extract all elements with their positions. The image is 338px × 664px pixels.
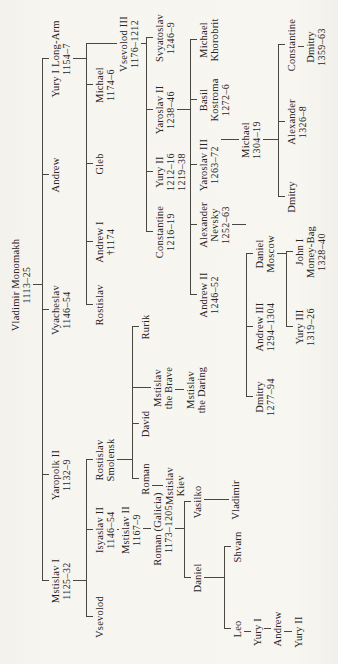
person-rostislav_y: Rostislav [94,285,105,326]
person-name: Daniel [192,563,203,592]
person-name: Vsevolod [94,596,105,638]
person-name: Roman [140,463,151,494]
person-yury2: Yury II1212–161219–38 [154,153,187,191]
person-rost_smol: RostislavSmolensk [94,438,116,481]
person-name: Michael [198,18,209,61]
person-basil: BasilKostroma1272–6 [198,78,231,121]
connector-line [146,231,153,232]
person-yury1_gal: Yury I [252,618,263,646]
connector-line [175,389,184,390]
connector-line [190,99,197,100]
person-dates: 1246–52 [209,272,220,317]
person-yury1long: Yury I Long-Arm1154–7 [50,20,72,97]
person-dates: 1326–8 [297,99,308,145]
connector-line [286,251,287,327]
person-svyatoslav: Svyatoslav1246–9 [154,14,176,62]
connector-line [184,501,191,502]
connector-line [190,294,197,295]
person-name: Khorobrit [209,18,220,61]
person-dates: 1263–72 [209,139,220,191]
person-name: Isyaslav II [94,507,105,553]
person-name: Andrew I [94,221,105,263]
person-dates: †1174 [105,221,116,263]
connector-line [246,396,253,397]
person-name: Constantine [154,206,165,258]
person-dates: 1146–54 [105,507,116,553]
connector-line [86,84,93,85]
connector-line [42,309,49,310]
connector-line [184,501,185,578]
person-shvarn: Shvarn [232,532,243,563]
connector-line [246,326,253,327]
connector-line [286,326,293,327]
person-vyacheslav: Vyacheslav1146–54 [50,285,72,335]
connector-line [221,139,239,140]
person-david: David [140,411,151,438]
person-michael_1304: Michael1304–19 [240,121,262,159]
connector-line [132,423,139,424]
connector-line [42,174,49,175]
person-yury3: Yury III1319–26 [294,308,316,346]
person-dmitry_tver: Dmitry [286,181,297,213]
connector-line [86,529,93,530]
person-name: Michael [240,121,251,159]
connector-line [146,37,147,232]
person-constantine_tver: Constantine [286,19,297,71]
person-dates: 1238–46 [165,86,176,135]
scanned-page: Vladimir Monomakh1113–25Mstislav I1125–3… [0,0,338,664]
person-name: Kiev [175,467,186,505]
connector-line [264,628,271,629]
person-name: Vasilko [192,486,203,519]
connector-line [190,39,191,295]
connector-line [86,459,87,617]
connector-line [278,44,285,45]
person-name: Mstislav [185,367,196,414]
connector-line [42,58,43,581]
person-name: Moscow [265,235,276,272]
person-name: Rostislav [94,438,105,481]
person-dates: 1132–9 [61,450,72,500]
person-name: Andrew III [254,303,265,352]
person-dates: 1294–1304 [265,303,276,352]
person-name: Vladimir Monomakh [10,239,21,331]
connector-line [184,577,191,578]
person-name: Yury III [294,308,305,346]
person-name: Dmitry [305,28,316,66]
person-name: Yaroslav II [154,86,165,135]
person-name: Gleb [94,153,105,174]
person-name: Andrew [272,611,283,646]
person-andrew_gal: Andrew [272,611,283,646]
connector-line [42,474,49,475]
person-dates: 1359–63 [316,28,327,66]
person-daniel_mosc: DanielMoscow [254,235,276,272]
connector-line [278,196,285,197]
connector-line [73,580,86,581]
person-dates: 1304–19 [251,121,262,159]
person-john1: John IMoney-Bag1328–40 [294,226,327,278]
person-name: Vyacheslav [50,285,61,335]
person-name: Yury II [293,616,304,647]
person-dates: 1176–1212 [129,16,140,72]
person-name: Mstislav II [120,506,131,554]
person-vasilko: Vasilko [192,486,203,519]
connector-line [298,46,304,47]
person-name: John I [294,226,305,278]
page-rotator: Vladimir Monomakh1113–25Mstislav I1125–3… [0,0,338,664]
person-name: Mstislav [152,367,163,409]
person-name: Rostislav [94,285,105,326]
person-mst_daring: Mstislavthe Daring [185,367,207,414]
person-vladimir: Vladimir [230,480,241,520]
person-name: Roman (Galicia) [152,492,163,565]
connector-line [146,171,153,172]
person-name: Leo [232,621,243,638]
person-alexander_1326: Alexander1326–8 [286,99,308,145]
person-name: Alexander [198,202,209,248]
person-name: Dmitry [254,378,265,416]
connector-line [190,164,197,165]
person-name: Kostroma [209,78,220,121]
person-dates: 1319–26 [305,308,316,346]
connector-line [146,37,153,38]
person-name: Vsevolod III [118,16,129,72]
person-andrew3: Andrew III1294–1304 [254,303,276,352]
person-name: Dmitry [286,181,297,213]
